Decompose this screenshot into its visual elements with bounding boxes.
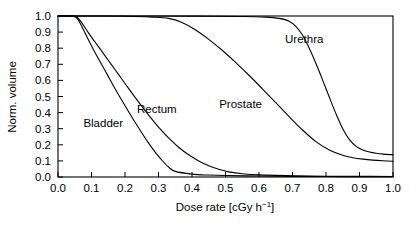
curve-rectum	[58, 16, 393, 177]
data-curves-group	[58, 16, 393, 177]
x-tick-label-0.5: 0.5	[218, 182, 234, 194]
curve-label-bladder: Bladder	[83, 117, 123, 129]
curve-bladder	[58, 16, 393, 177]
x-tick-label-0.6: 0.6	[251, 182, 267, 194]
x-tick-label-0.0: 0.0	[50, 182, 66, 194]
y-tick-label-0.6: 0.6	[35, 74, 51, 86]
y-tick-label-1.0: 1.0	[35, 10, 51, 22]
curve-urethra	[58, 16, 393, 155]
x-tick-label-0.7: 0.7	[285, 182, 301, 194]
x-tick-label-0.1: 0.1	[84, 182, 100, 194]
x-tick-label-0.3: 0.3	[151, 182, 167, 194]
x-tick-label-1.0: 1.0	[385, 182, 401, 194]
dose-volume-histogram-plot: 0.00.10.20.30.40.50.60.70.80.91.0 0.00.1…	[0, 0, 418, 229]
y-tick-label-0.9: 0.9	[35, 26, 51, 38]
x-axis-tick-labels: 0.00.10.20.30.40.50.60.70.80.91.0	[50, 182, 401, 194]
y-axis-tick-labels: 0.00.10.20.30.40.50.60.70.80.91.0	[35, 10, 52, 183]
x-tick-label-0.8: 0.8	[318, 182, 334, 194]
y-tick-label-0.1: 0.1	[35, 155, 51, 167]
curve-label-rectum: Rectum	[137, 103, 177, 115]
x-tick-label-0.4: 0.4	[184, 182, 201, 194]
plot-frame	[58, 16, 393, 177]
curve-label-prostate: Prostate	[219, 98, 262, 110]
y-tick-label-0.2: 0.2	[35, 139, 51, 151]
y-tick-label-0.8: 0.8	[35, 42, 51, 54]
chart-figure: 0.00.10.20.30.40.50.60.70.80.91.0 0.00.1…	[0, 0, 418, 229]
y-tick-label-0.4: 0.4	[35, 107, 52, 119]
y-tick-label-0.7: 0.7	[35, 58, 51, 70]
x-tick-label-0.9: 0.9	[352, 182, 368, 194]
y-tick-label-0.3: 0.3	[35, 123, 51, 135]
y-tick-label-0.0: 0.0	[35, 171, 51, 183]
curve-label-urethra: Urethra	[285, 33, 324, 45]
y-axis-title: Norm. volume	[6, 61, 18, 133]
y-tick-label-0.5: 0.5	[35, 91, 51, 103]
curve-prostate	[58, 16, 393, 161]
x-tick-label-0.2: 0.2	[117, 182, 133, 194]
y-axis-ticks	[58, 16, 63, 177]
x-axis-title: Dose rate [cGy h−1]	[176, 200, 275, 213]
